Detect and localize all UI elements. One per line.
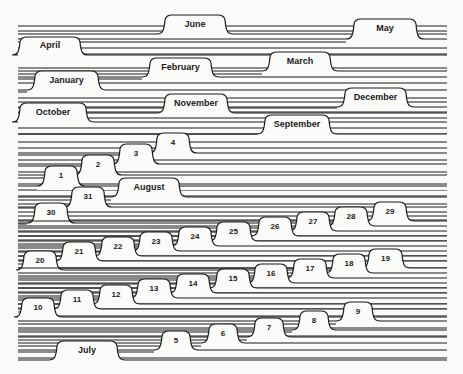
tab-label: 6	[221, 329, 226, 338]
tab-label: 11	[73, 295, 82, 304]
tab-label: 26	[271, 222, 280, 231]
tab-label: May	[376, 23, 394, 33]
index-tab-illustration: JuneMayAprilMarchFebruaryJanuaryDecember…	[0, 0, 463, 374]
tab-label: 27	[309, 217, 318, 226]
tab-group: JuneMayAprilMarchFebruaryJanuaryDecember…	[12, 15, 447, 364]
tab-label: April	[40, 40, 61, 50]
tab-label: 24	[191, 232, 200, 241]
tab-label: 25	[229, 227, 238, 236]
tab-label: 14	[189, 279, 198, 288]
tab-label: 23	[152, 237, 161, 246]
tab-label: November	[174, 98, 219, 108]
tab-label: 1	[59, 171, 64, 180]
tab-label: February	[161, 62, 200, 72]
tab-label: 28	[347, 212, 356, 221]
tab-label: 22	[114, 242, 123, 251]
tab-label: 2	[96, 160, 101, 169]
tab-label: March	[287, 56, 314, 66]
tab-label: 7	[267, 323, 272, 332]
tab-label: August	[134, 182, 165, 192]
tab-label: 21	[75, 247, 84, 256]
tab-label: 8	[312, 316, 317, 325]
tab-label: 4	[171, 138, 176, 147]
tab-label: 9	[356, 307, 361, 316]
tab-label: 3	[134, 149, 139, 158]
tab-label: June	[184, 19, 205, 29]
tab-label: 16	[267, 269, 276, 278]
divider-tabs-drawing: JuneMayAprilMarchFebruaryJanuaryDecember…	[0, 0, 463, 374]
tab-label: October	[36, 107, 71, 117]
tab-label: December	[354, 92, 398, 102]
tab-label: 18	[345, 259, 354, 268]
tab-label: 15	[229, 274, 238, 283]
tab-label: 20	[36, 256, 45, 265]
tab-label: 5	[174, 336, 179, 345]
tab-label: 12	[112, 290, 121, 299]
tab-label: 10	[34, 303, 43, 312]
tab-label: July	[78, 345, 96, 355]
tab-label: January	[49, 75, 84, 85]
tab-label: September	[274, 119, 321, 129]
tab-label: 29	[386, 207, 395, 216]
tab-label: 30	[47, 208, 56, 217]
tab-label: 13	[150, 284, 159, 293]
tab-label: 31	[84, 192, 93, 201]
tab-label: 17	[306, 264, 315, 273]
tab-label: 19	[381, 254, 390, 263]
